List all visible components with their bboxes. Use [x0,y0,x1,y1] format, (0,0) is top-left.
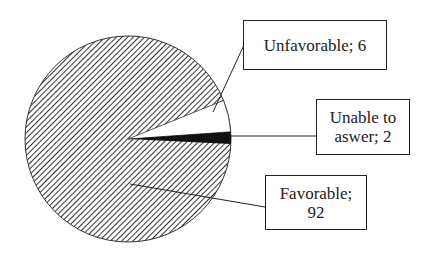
label-favorable-line2: 92 [308,203,325,222]
leader-unfavorable [213,45,244,112]
label-unable: Unable to aswer; 2 [316,99,410,155]
label-favorable: Favorable; 92 [265,175,367,230]
label-unable-line2: aswer; 2 [334,127,391,146]
label-unable-line1: Unable to [330,108,397,127]
label-unfavorable: Unfavorable; 6 [243,20,387,70]
label-unfavorable-text: Unfavorable; 6 [264,36,366,55]
label-favorable-line1: Favorable; [280,184,353,203]
